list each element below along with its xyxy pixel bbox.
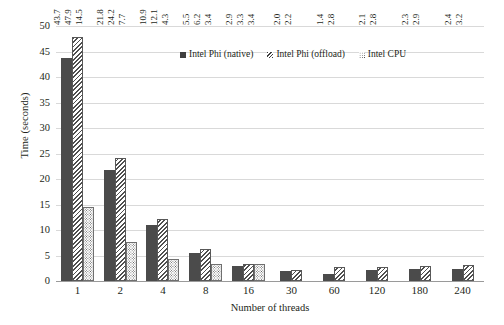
x-axis-tick-label: 60	[313, 284, 356, 300]
bar-slot: 2.8	[334, 26, 345, 281]
x-axis-tick-label: 4	[142, 284, 185, 300]
bar[interactable]	[126, 242, 137, 281]
bar[interactable]	[168, 259, 179, 281]
bar[interactable]	[104, 170, 115, 281]
bar-slot: 10.9	[146, 26, 157, 281]
y-axis-tick-label: 20	[22, 174, 50, 185]
bar-group: 2.93.33.4	[227, 26, 270, 281]
y-axis-tick-label: 15	[22, 199, 50, 210]
bar-slot: 21.8	[104, 26, 115, 281]
bar-slot: 2.1	[366, 26, 377, 281]
bar[interactable]	[61, 58, 72, 281]
bar-group: 5.56.23.4	[184, 26, 227, 281]
bar-value-text: 2.8	[326, 14, 335, 25]
x-axis-title: Number of threads	[56, 302, 484, 313]
bar[interactable]	[254, 264, 265, 281]
bar-value-text: 3.3	[235, 14, 244, 25]
bar-value-text: 4.3	[160, 14, 169, 25]
bar-group-bars: 21.824.27.7	[99, 26, 142, 281]
bar[interactable]	[366, 270, 377, 281]
x-axis-tick-label: 16	[227, 284, 270, 300]
y-axis-tick-label: 10	[22, 225, 50, 236]
bar[interactable]	[463, 265, 474, 281]
bar-slot: 2.2	[291, 26, 302, 281]
bar[interactable]	[115, 158, 126, 281]
bar-group-bars: 2.32.9	[398, 26, 441, 281]
bar-slot: 3.2	[463, 26, 474, 281]
bar[interactable]	[334, 267, 345, 281]
bar-value-text: 5.5	[181, 14, 190, 25]
legend-swatch-icon	[359, 52, 365, 58]
bar[interactable]	[232, 266, 243, 281]
legend-item[interactable]: Intel CPU	[359, 50, 406, 60]
bar-group: 1.42.8	[313, 26, 356, 281]
bar-group: 2.32.9	[398, 26, 441, 281]
bar-slot: 6.2	[200, 26, 211, 281]
bar-group: 21.824.27.7	[99, 26, 142, 281]
bar-slot: 2.9	[232, 26, 243, 281]
bar-chart: Time (seconds) 05101520253035404550 43.7…	[0, 0, 504, 325]
bar[interactable]	[211, 264, 222, 281]
bar[interactable]	[200, 249, 211, 281]
bar[interactable]	[291, 270, 302, 281]
bar-value-text: 6.2	[192, 14, 201, 25]
bar-group: 10.912.14.3	[142, 26, 185, 281]
bar-value-label: 3.2	[459, 19, 468, 30]
bar-value-text: 3.2	[455, 14, 464, 25]
bar[interactable]	[420, 266, 431, 281]
bar[interactable]	[72, 37, 83, 281]
bar-value-text: 24.2	[107, 9, 116, 25]
bar-value-label: 3.4	[251, 19, 260, 30]
bar-group: 2.12.8	[356, 26, 399, 281]
bar-slot: 2.3	[409, 26, 420, 281]
bar-value-label: 14.5	[79, 17, 88, 33]
legend-label: Intel Phi (native)	[189, 50, 253, 60]
bar[interactable]	[146, 225, 157, 281]
bar-value-text: 3.4	[203, 14, 212, 25]
bar-value-text: 2.1	[358, 14, 367, 25]
bar-value-text: 2.3	[401, 14, 410, 25]
bar-value-text: 2.9	[412, 14, 421, 25]
bar[interactable]	[409, 269, 420, 281]
bar[interactable]	[157, 219, 168, 281]
bar-value-text: 12.1	[149, 9, 158, 25]
bar-value-label: 3.4	[208, 19, 217, 30]
bar-slot: 24.2	[115, 26, 126, 281]
bar-value-text: 43.7	[53, 9, 62, 25]
bar[interactable]	[377, 267, 388, 281]
bar-value-text: 2.8	[369, 14, 378, 25]
legend-item[interactable]: Intel Phi (native)	[180, 50, 253, 60]
bar-group-bars: 2.93.33.4	[227, 26, 270, 281]
x-axis-tick-label: 120	[356, 284, 399, 300]
x-axis-tick-label: 240	[441, 284, 484, 300]
bar-value-text: 1.4	[315, 14, 324, 25]
bar-slot: 14.5	[83, 26, 94, 281]
bar[interactable]	[323, 274, 334, 281]
bar-value-label: 2.2	[288, 19, 297, 30]
bar[interactable]	[243, 264, 254, 281]
bar-value-label: 4.3	[165, 19, 174, 30]
bar-groups: 43.747.914.521.824.27.710.912.14.35.56.2…	[56, 26, 484, 281]
x-axis-tick-label: 1	[56, 284, 99, 300]
bar-group: 2.43.2	[441, 26, 484, 281]
bar-group-bars: 2.43.2	[441, 26, 484, 281]
legend-item[interactable]: Intel Phi (offload)	[267, 50, 344, 60]
bar-value-text: 3.4	[246, 14, 255, 25]
bar-value-text: 14.5	[75, 9, 84, 25]
bar-value-text: 2.4	[444, 14, 453, 25]
y-axis-tick-label: 45	[22, 46, 50, 57]
bar-group-bars: 2.12.8	[356, 26, 399, 281]
bar[interactable]	[83, 207, 94, 281]
bar-value-text: 47.9	[64, 9, 73, 25]
bar[interactable]	[452, 269, 463, 281]
bar-value-text: 7.7	[118, 14, 127, 25]
bar[interactable]	[189, 253, 200, 281]
bar-value-text: 2.2	[283, 14, 292, 25]
bar-value-text: 10.9	[138, 9, 147, 25]
y-axis-tick-label: 50	[22, 21, 50, 32]
bar-value-text: 21.8	[96, 9, 105, 25]
bar-value-label: 7.7	[122, 19, 131, 30]
bar-group: 43.747.914.5	[56, 26, 99, 281]
bar-slot: 2.4	[452, 26, 463, 281]
bar[interactable]	[280, 271, 291, 281]
